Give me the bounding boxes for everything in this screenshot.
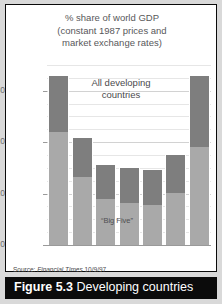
figure-frame: % share of world GDP (constant 1987 pric… xyxy=(0,0,222,304)
bar-segment-all-developing xyxy=(190,76,209,147)
figure-number: Figure 5.3 xyxy=(14,280,73,294)
bar xyxy=(72,138,93,246)
source-date: 10/9/97 xyxy=(85,266,107,273)
bar-segment-all-developing xyxy=(166,155,185,193)
x-axis-line xyxy=(47,245,211,246)
gridline xyxy=(47,104,211,105)
bar xyxy=(165,155,186,245)
y-axis-tick-label: 0 xyxy=(0,239,5,249)
bar-segment-all-developing xyxy=(96,165,115,199)
figure-caption-text: Developing countries xyxy=(77,280,194,294)
bar xyxy=(189,76,210,245)
gridline xyxy=(47,116,211,117)
y-axis-tick-label: 10 xyxy=(0,188,5,198)
chart-title-line-1: % share of world GDP xyxy=(6,12,218,25)
figure-caption-bar: Figure 5.3 Developing countries xyxy=(5,277,217,299)
y-axis-tick-mark xyxy=(43,91,47,92)
gridline xyxy=(47,65,211,66)
chart-title-line-3: market exchange rates) xyxy=(6,37,218,50)
bar xyxy=(142,170,163,245)
source-publication: Financial Times xyxy=(37,266,82,273)
all-developing-line-1: All developing xyxy=(66,77,176,89)
chart-title: % share of world GDP (constant 1987 pric… xyxy=(6,12,218,50)
bar xyxy=(119,168,140,245)
all-developing-annotation: All developing countries xyxy=(66,77,176,101)
figure-caption: Figure 5.3 Developing countries xyxy=(14,280,193,294)
bar-segment-all-developing xyxy=(73,138,92,178)
y-axis-tick-mark xyxy=(43,142,47,143)
bar-segment-all-developing xyxy=(120,168,139,204)
gridline xyxy=(47,129,211,130)
all-developing-line-2: countries xyxy=(66,89,176,101)
bar xyxy=(95,165,116,245)
y-axis-tick-label: 30 xyxy=(0,85,5,95)
source-prefix: Source: xyxy=(13,266,35,273)
y-axis-tick-mark xyxy=(43,194,47,195)
big-five-annotation: “Big Five” xyxy=(78,216,156,225)
y-axis-tick-mark xyxy=(43,245,47,246)
y-axis-tick-label: 20 xyxy=(0,136,5,146)
chart-title-line-2: (constant 1987 prices and xyxy=(6,25,218,38)
bar-segment-all-developing xyxy=(143,170,162,206)
chart-card: % share of world GDP (constant 1987 pric… xyxy=(5,4,217,272)
bar xyxy=(48,76,69,245)
source-note: Source: Financial Times 10/9/97 xyxy=(13,266,106,273)
